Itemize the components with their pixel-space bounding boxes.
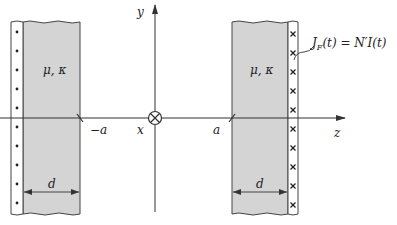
y-axis-label: y [136,5,144,19]
dot-icon [16,164,19,167]
dot-icon [16,31,19,34]
current-density-label: JF(t) = N′I(t) [309,36,387,52]
current-rest: (t) = N′I(t) [322,36,386,50]
slab-diagram: μ, κ d μ, κ d [0,0,397,225]
into-page-current-icon [149,112,162,125]
dot-icon [16,107,19,110]
z-axis-label: z [333,126,341,140]
right-thickness-label: d [256,177,264,191]
right-material-label: μ, κ [250,63,273,77]
left-material-label: μ, κ [43,63,66,77]
dot-icon [16,88,19,91]
dot-icon [16,69,19,72]
x-axis-label: x [137,123,144,137]
dot-icon [16,50,19,53]
dot-icon [16,145,19,148]
tick-label-neg-a: −a [90,123,107,137]
tick-label-pos-a: a [213,123,220,137]
current-annotation: JF(t) = N′I(t) [294,36,387,60]
dot-icon [16,126,19,129]
dot-icon [16,202,19,205]
dot-icon [16,183,19,186]
left-thickness-label: d [48,177,56,191]
